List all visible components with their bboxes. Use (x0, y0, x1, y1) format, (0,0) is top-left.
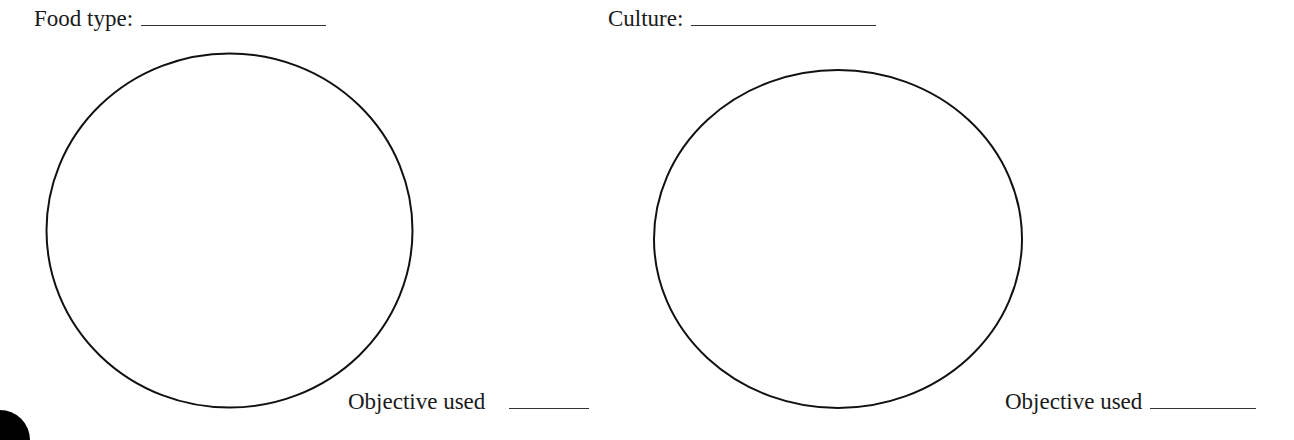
objective-used-blank-1[interactable] (509, 390, 589, 409)
observation-circles (0, 0, 1294, 440)
objective-used-label-1: Objective used (348, 389, 485, 415)
objective-used-blank-2[interactable] (1150, 390, 1256, 409)
objective-used-field-2: Objective used (1005, 389, 1256, 415)
observation-circle-1 (47, 54, 413, 408)
objective-used-field-1: Objective used (348, 389, 589, 415)
observation-circle-2 (654, 70, 1022, 408)
objective-used-label-2: Objective used (1005, 389, 1142, 415)
